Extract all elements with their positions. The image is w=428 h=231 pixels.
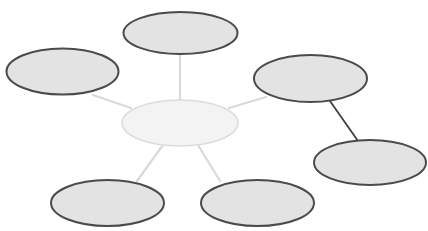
- node-right[interactable]: [254, 55, 367, 102]
- center-ellipse[interactable]: [122, 100, 238, 146]
- connector-center-bottom-left: [137, 145, 163, 181]
- node-upper-left[interactable]: [7, 49, 119, 95]
- connector-center-upper-left: [93, 95, 131, 108]
- top-ellipse[interactable]: [124, 12, 238, 54]
- far-right-ellipse[interactable]: [314, 140, 426, 185]
- connector-center-bottom-right: [198, 145, 220, 181]
- upper-left-ellipse[interactable]: [7, 49, 119, 95]
- bottom-left-ellipse[interactable]: [51, 180, 164, 226]
- node-far-right[interactable]: [314, 140, 426, 185]
- node-bottom-left[interactable]: [51, 180, 164, 226]
- center-node[interactable]: [122, 100, 238, 146]
- node-bottom-right[interactable]: [201, 180, 314, 226]
- connector-center-right: [229, 97, 266, 108]
- connector-right-far-right: [330, 101, 358, 141]
- node-top[interactable]: [124, 12, 238, 54]
- bottom-right-ellipse[interactable]: [201, 180, 314, 226]
- right-ellipse[interactable]: [254, 55, 367, 102]
- spider-diagram: [0, 0, 428, 231]
